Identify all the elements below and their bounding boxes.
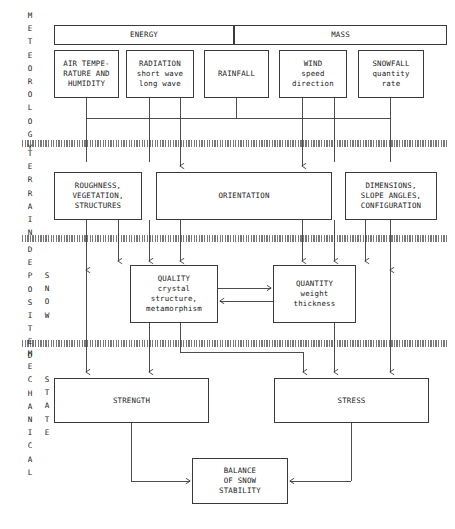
band-label-terrain: TERRAIN <box>24 150 36 242</box>
box-quantity[interactable]: QUANTITY weight thickness <box>273 265 356 323</box>
box-wind[interactable]: WIND speed direction <box>279 50 347 98</box>
box-roughness-vegetation-structures[interactable]: ROUGHNESS, VEGETATION, STRUCTURES <box>54 172 142 220</box>
band-label-state: STATE <box>41 376 53 442</box>
box-stress[interactable]: STRESS <box>274 378 429 423</box>
band-label-deposited: DEPOSITED <box>24 246 36 365</box>
box-air-temperature-humidity[interactable]: AIR TEMPE- RATURE AND HUMIDITY <box>54 50 119 98</box>
band-label-mechanical: MECHANICAL <box>24 350 36 482</box>
box-dimensions-slope-configuration[interactable]: DIMENSIONS, SLOPE ANGLES, CONFIGURATION <box>345 172 437 220</box>
box-radiation[interactable]: RADIATION short wave long wave <box>126 50 194 98</box>
band-label-snow: SNOW <box>41 272 53 325</box>
box-quality[interactable]: QUALITY crystal structure, metamorphism <box>130 265 218 323</box>
group-box-mass[interactable]: MASS <box>234 25 447 45</box>
box-balance-of-snow-stability[interactable]: BALANCE OF SNOW STABILITY <box>192 458 288 504</box>
group-box-energy[interactable]: ENERGY <box>54 25 234 45</box>
band-label-meteorology: METEOROLOGY <box>24 12 36 157</box>
box-strength[interactable]: STRENGTH <box>54 378 209 423</box>
box-layer: METEOROLOGY TERRAIN DEPOSITED SNOW MECHA… <box>0 0 455 529</box>
box-orientation[interactable]: ORIENTATION <box>156 172 332 220</box>
diagram-canvas: METEOROLOGY TERRAIN DEPOSITED SNOW MECHA… <box>0 0 455 529</box>
box-rainfall[interactable]: RAINFALL <box>204 50 269 98</box>
box-snowfall[interactable]: SNOWFALL quantity rate <box>358 50 424 98</box>
